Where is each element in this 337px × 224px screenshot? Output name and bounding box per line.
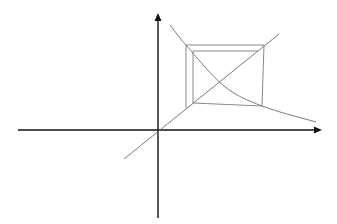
cobweb-segment [262,45,264,106]
x-axis-arrow-icon [314,127,322,134]
identity-line [124,34,279,159]
cobweb-diagram [0,0,337,224]
cobweb-segment [193,103,262,106]
y-axis-arrow-icon [155,13,162,21]
cobweb-path [186,45,264,108]
axes [18,13,322,218]
function-curve [170,25,316,122]
